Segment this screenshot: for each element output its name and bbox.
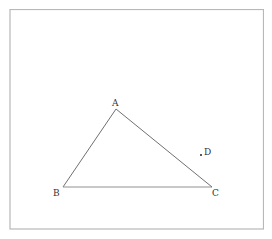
border-box (10, 10, 264, 230)
diagram-frame: A B C D (9, 9, 264, 230)
label-b: B (53, 188, 60, 198)
point-d (200, 154, 202, 156)
label-a: A (111, 98, 119, 108)
triangle-diagram: A B C D (9, 9, 264, 230)
label-c: C (212, 188, 219, 198)
label-d: D (204, 147, 211, 157)
